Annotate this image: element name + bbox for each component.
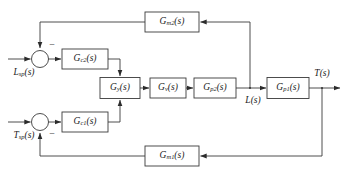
signal-label-l: L(s) [245, 96, 260, 106]
block-label-gm1: Gm1(s) [160, 151, 185, 161]
wire-gc1-to-gy [108, 100, 120, 122]
wire-gm1-to-sum-inner [40, 133, 145, 156]
block-label-gv: Gv(s) [158, 83, 178, 93]
wire-gm2-to-sum-outer [40, 22, 145, 48]
block-label-gc1: Gc1(s) [74, 117, 97, 127]
block-diagram-canvas: Gm2(s) Gc2(s) Gy(s) Gv(s) Gp2(s) Gp1(s) … [0, 0, 343, 177]
block-label-gy: Gy(s) [110, 83, 130, 93]
block-label-gm2: Gm2(s) [160, 17, 185, 27]
block-label-gp1: Gp1(s) [276, 83, 299, 93]
block-label-gc2: Gc2(s) [74, 54, 97, 64]
sign-label-outer-negative: − [49, 40, 55, 50]
summing-junction-outer-loop[interactable] [32, 51, 49, 68]
block-label-gp2: Gp2(s) [203, 83, 226, 93]
signal-label-tsp: Tsp(s) [13, 131, 34, 141]
summing-junction-inner-loop[interactable] [32, 114, 49, 131]
wire-gc2-to-gy [108, 59, 120, 76]
signal-label-t: T(s) [314, 69, 329, 79]
sign-label-inner-negative: − [49, 129, 55, 139]
signal-label-lsp: Lsp(s) [13, 68, 34, 78]
